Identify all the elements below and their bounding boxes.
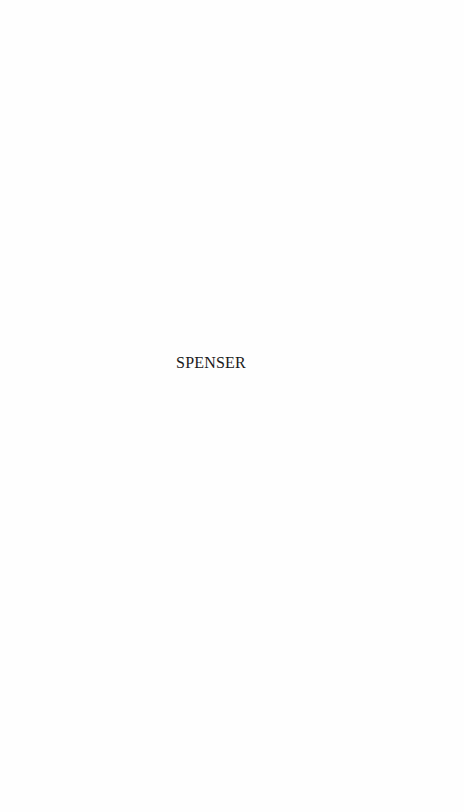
book-page: SPENSER (0, 0, 464, 812)
half-title-text: SPENSER (0, 352, 422, 374)
